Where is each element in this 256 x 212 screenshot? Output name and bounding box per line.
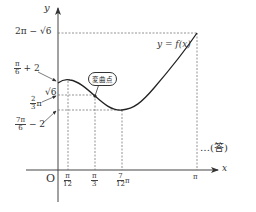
- x-tick-pi-3: π3: [91, 173, 98, 188]
- y-tick-local-min: 7π6 − 2: [15, 117, 45, 132]
- inflection-callout: 変曲点: [88, 72, 117, 86]
- frac-den: 12: [116, 181, 125, 188]
- y-axis-label: y: [44, 3, 50, 13]
- origin-label: O: [46, 173, 55, 184]
- frac-den: 3: [92, 181, 96, 188]
- guide-lines: [58, 33, 197, 170]
- frac-suffix: π: [36, 99, 41, 108]
- frac-den: 12: [63, 181, 72, 188]
- y-tick-top: 2π − √6: [15, 27, 51, 36]
- x-axis-label: x: [222, 164, 227, 173]
- frac-den: 3: [31, 104, 35, 111]
- y-tick-inflection: 23π: [30, 96, 42, 111]
- curve-label: y = f(x): [157, 40, 191, 49]
- frac-suffix: + 2: [23, 63, 39, 73]
- y-tick-local-max: π6 + 2: [14, 61, 40, 76]
- frac-den: 6: [18, 125, 22, 132]
- frac-suffix: − 2: [29, 119, 45, 129]
- y-tick-sqrt6: √6: [45, 88, 56, 97]
- answer-mark: …(答): [200, 143, 228, 153]
- x-tick-pi: π: [193, 174, 198, 181]
- frac-suffix: π: [125, 177, 130, 185]
- x-tick-7pi-12: 712π: [116, 173, 130, 188]
- x-tick-pi-12: π12: [63, 173, 72, 188]
- frac-den: 6: [15, 69, 19, 76]
